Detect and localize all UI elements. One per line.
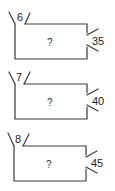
figure-2-center-label: ?: [47, 97, 53, 108]
figure-3-center-label: ?: [46, 159, 52, 170]
figure-2: 7 ? 40: [9, 71, 104, 119]
figure-1-side-label: 35: [92, 35, 104, 47]
figure-3-left-tick: [8, 133, 14, 146]
figure-2-side-label: 40: [92, 95, 104, 107]
diagram-canvas: 6 ? 35 7 ? 40 8 ? 45: [0, 0, 115, 191]
figure-1-top-label: 6: [17, 11, 23, 23]
figure-1: 6 ? 35: [9, 11, 104, 59]
figure-1-center-label: ?: [47, 37, 53, 48]
figure-1-left-tick: [9, 12, 15, 24]
figure-3-top-label: 8: [15, 133, 21, 145]
figure-3-side-label: 45: [91, 157, 103, 169]
figure-2-left-tick: [9, 72, 15, 84]
figure-3: 8 ? 45: [8, 133, 103, 181]
figure-1-right-tick: [25, 13, 30, 24]
figure-2-right-tick: [24, 72, 30, 84]
figure-2-top-label: 7: [16, 71, 22, 83]
figure-3-right-tick: [23, 134, 29, 146]
